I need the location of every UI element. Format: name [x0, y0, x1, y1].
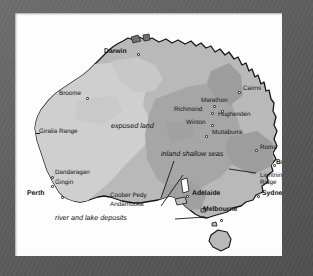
label-broome: Broome: [59, 91, 81, 97]
label-exposed-land: exposed land: [111, 122, 154, 129]
label-darwin: Darwin: [104, 49, 127, 56]
dot-richmond: [211, 112, 214, 115]
dot-melbourne: [220, 219, 223, 222]
dot-dandaragan: [51, 176, 54, 179]
dot-cairns: [238, 91, 241, 94]
label-marathon: Marathon: [201, 98, 228, 104]
label-lightning-ridge: Lightning Ridge: [260, 172, 282, 186]
label-winton: Winton: [186, 120, 206, 126]
label-coober-pedy: Coober Pedy: [110, 193, 147, 199]
map-paper: exposed land inland shallow seas river a…: [15, 13, 282, 256]
dot-roma: [255, 149, 258, 152]
label-dandaragan: Dandaragan: [55, 170, 90, 176]
label-brisbane: Brisbane: [276, 160, 282, 167]
label-muttaburra: Muttaburra: [212, 130, 242, 136]
dot-hughenden: [221, 110, 224, 113]
label-andamooka: Andamooka: [110, 202, 144, 208]
dot-muttaburra: [205, 135, 208, 138]
dot-marathon: [213, 105, 216, 108]
dot-perth: [61, 196, 64, 199]
dot-adelaide: [186, 195, 189, 198]
label-perth: Perth: [27, 191, 44, 198]
tick-giralia-range: [36, 133, 40, 134]
label-sydney: Sydney: [262, 191, 282, 198]
dot-winton: [211, 124, 214, 127]
label-river-and-lake-deposits: river and lake deposits: [55, 214, 127, 221]
dot-broome: [86, 97, 89, 100]
label-cairns: Cairns: [243, 86, 261, 92]
label-hughenden: Hughenden: [218, 112, 251, 118]
leader-river-and-lake-deposits: [175, 217, 205, 219]
dot-darwin: [137, 53, 140, 56]
label-inland-shallow-seas: inland shallow seas: [161, 150, 223, 157]
dot-brisbane: [273, 164, 276, 167]
label-giralia-range: Giralia Range: [39, 129, 78, 135]
figure-frame: exposed land inland shallow seas river a…: [0, 0, 313, 276]
dot-gingin: [51, 185, 54, 188]
tasmania: [209, 230, 231, 251]
label-adelaide: Adelaide: [192, 191, 220, 198]
dot-sydney: [257, 195, 260, 198]
label-richmond: Richmond: [174, 107, 202, 113]
label-melbourne: Melbourne: [203, 207, 237, 214]
label-roma: Roma: [260, 145, 277, 151]
label-gingin: Gingin: [55, 180, 73, 186]
